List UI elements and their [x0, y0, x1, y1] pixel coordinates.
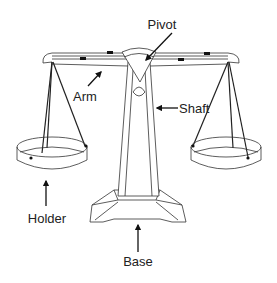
arm-label: Arm: [73, 89, 97, 104]
balance-scale-diagram: Pivot Arm Shaft Holder Base: [0, 0, 277, 283]
pivot-label: Pivot: [148, 17, 177, 32]
left-holder-part: [17, 62, 88, 169]
shaft-part: [118, 62, 159, 196]
arm-arrow-icon: [88, 72, 101, 86]
holder-label: Holder: [28, 211, 67, 226]
base-label: Base: [123, 254, 153, 269]
shaft-label: Shaft: [179, 101, 210, 116]
